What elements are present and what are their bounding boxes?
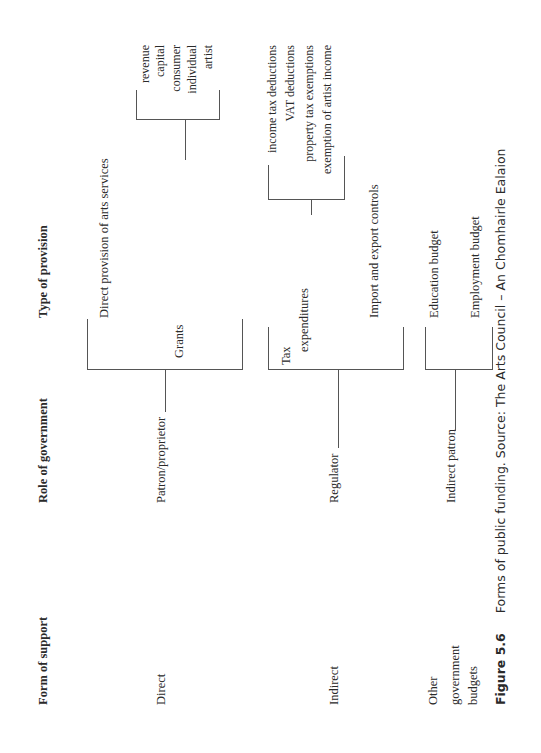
- form-other-line2: government: [448, 645, 462, 705]
- bracket-grants-top: [136, 90, 137, 120]
- bracket-tax: [268, 199, 345, 200]
- bracket-grants: [136, 119, 220, 120]
- provision-employment-budget: Employment budget: [468, 216, 482, 318]
- role-regulator: Regulator: [327, 454, 341, 503]
- bracket-direct-top: [87, 319, 88, 370]
- bracket-indirect-bottom: [403, 327, 404, 370]
- grants-sub-capital: capital: [153, 45, 167, 77]
- tax-sub-vat-deductions: VAT deductions: [283, 45, 297, 122]
- connector-grants: [185, 120, 186, 160]
- bracket-indirect-top: [268, 327, 269, 370]
- bracket-direct: [87, 369, 243, 370]
- bracket-grants-bottom: [219, 90, 220, 120]
- bracket-other-top: [425, 327, 426, 370]
- connector-direct: [165, 370, 166, 412]
- provision-tax-line1: Tax: [279, 346, 293, 365]
- figure-caption-text: Forms of public funding. Source: The Art…: [493, 149, 508, 614]
- grants-sub-revenue: revenue: [138, 45, 152, 83]
- connector-indirect: [338, 370, 339, 448]
- bracket-indirect: [268, 369, 404, 370]
- connector-other: [455, 370, 456, 431]
- header-form-of-support: Form of support: [36, 617, 50, 705]
- role-indirect-patron: Indirect patron: [444, 429, 458, 503]
- grants-sub-consumer: consumer: [169, 45, 183, 92]
- form-other-line3: budgets: [466, 666, 480, 705]
- rotated-figure-page: Form of support Role of government Type …: [0, 0, 541, 753]
- provision-tax-line2: expenditures: [297, 288, 311, 352]
- provision-grants: Grants: [172, 325, 186, 358]
- connector-tax: [311, 200, 312, 215]
- grants-sub-artist: artist: [201, 45, 215, 69]
- header-type-of-provision: Type of provision: [36, 225, 50, 318]
- form-direct: Direct: [154, 674, 168, 705]
- role-patron-proprietor: Patron/proprietor: [154, 417, 168, 503]
- header-role-of-government: Role of government: [36, 398, 50, 503]
- provision-education-budget: Education budget: [427, 230, 441, 318]
- tax-sub-income-tax-deductions: income tax deductions: [265, 45, 279, 153]
- provision-direct-arts-services: Direct provision of arts services: [97, 158, 111, 318]
- form-other-line1: Other: [426, 677, 440, 705]
- figure-label: Figure 5.6: [493, 633, 508, 705]
- bracket-tax-top: [268, 165, 269, 200]
- form-indirect: Indirect: [327, 666, 341, 705]
- figure-caption: Figure 5.6 Forms of public funding. Sour…: [494, 149, 508, 705]
- bracket-direct-bottom: [242, 319, 243, 370]
- bracket-other: [425, 369, 493, 370]
- tax-sub-exemption-artist-income: exemption of artist income: [320, 45, 334, 174]
- grants-sub-individual: individual: [185, 45, 199, 94]
- bracket-tax-bottom: [344, 156, 345, 200]
- tax-sub-property-tax-exemptions: property tax exemptions: [302, 45, 316, 162]
- provision-import-export-controls: Import and export controls: [367, 184, 381, 318]
